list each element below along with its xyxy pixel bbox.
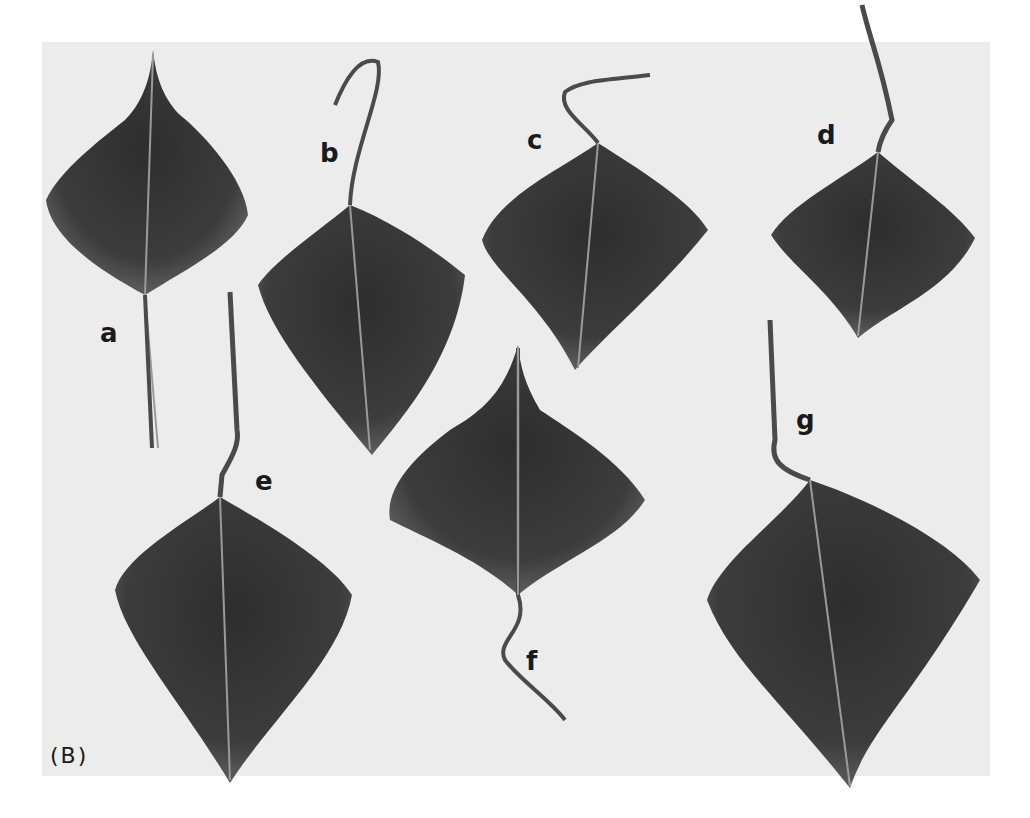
- leaf-a: [46, 50, 248, 448]
- leaf-d: [771, 5, 975, 338]
- leaves-illustration: [0, 0, 1030, 818]
- leaf-label-f: f: [526, 648, 537, 674]
- leaf-label-c: c: [527, 127, 542, 153]
- panel-tag: (B): [50, 743, 88, 768]
- leaf-label-b: b: [320, 140, 339, 166]
- leaf-c: [482, 75, 708, 370]
- leaf-f: [389, 345, 645, 720]
- leaf-label-e: e: [255, 468, 273, 494]
- leaf-b: [258, 61, 465, 455]
- leaf-label-a: a: [100, 320, 118, 346]
- leaf-label-g: g: [796, 407, 815, 433]
- leaf-label-d: d: [817, 122, 836, 148]
- leaf-g: [707, 320, 980, 788]
